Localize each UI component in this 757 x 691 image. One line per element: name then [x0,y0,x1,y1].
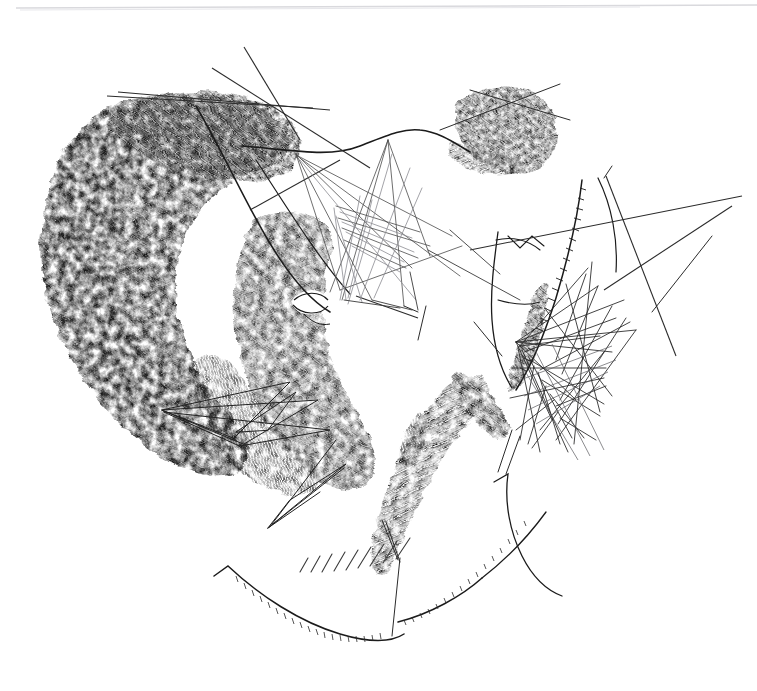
artwork-canvas: Untitled ink drawing [0,0,757,691]
ink-drawing [0,0,757,691]
